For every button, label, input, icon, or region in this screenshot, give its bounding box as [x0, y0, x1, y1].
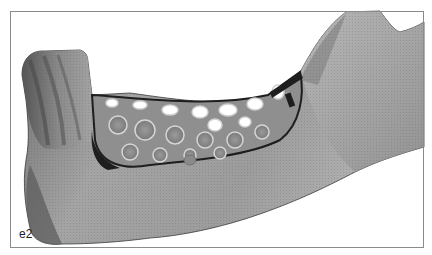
figure-panel: e2	[0, 0, 432, 255]
figure-frame	[10, 11, 424, 248]
panel-label: e2	[19, 228, 32, 240]
